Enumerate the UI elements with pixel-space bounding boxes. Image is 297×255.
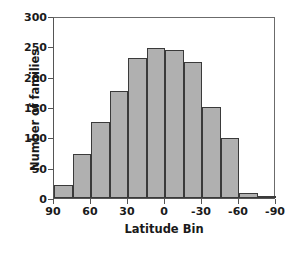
x-axis-tick-label: -30 — [191, 205, 211, 218]
y-axis-tick-label: 250 — [14, 41, 47, 54]
x-axis-tick-mark — [127, 199, 128, 204]
x-axis-tick-label: 0 — [160, 205, 168, 218]
x-axis-tick-label: -90 — [265, 205, 285, 218]
histogram-bar — [258, 196, 277, 198]
histogram-bar — [202, 107, 221, 198]
y-axis-tick-mark — [48, 138, 53, 139]
histogram-bar — [54, 185, 73, 198]
x-axis-tick-label: 60 — [82, 205, 97, 218]
y-axis-tick-labels: 050100150200250300 — [14, 0, 47, 255]
x-axis-title: Latitude Bin — [53, 222, 275, 236]
x-axis-tick-labels: 9060300-30-60-90 — [53, 205, 275, 221]
x-axis-tick-mark — [164, 199, 165, 204]
x-axis-tick-label: -60 — [228, 205, 248, 218]
y-axis-tick-mark — [48, 108, 53, 109]
histogram-bar — [221, 138, 240, 198]
histogram-bar — [110, 91, 129, 198]
x-axis-tick-mark — [53, 199, 54, 204]
histogram-bar — [128, 58, 147, 198]
x-axis-tick-mark — [275, 199, 276, 204]
y-axis-tick-mark — [48, 47, 53, 48]
y-axis-tick-label: 150 — [14, 102, 47, 115]
y-axis-tick-mark — [48, 78, 53, 79]
y-axis-tick-label: 100 — [14, 132, 47, 145]
y-axis-tick-label: 300 — [14, 11, 47, 24]
histogram-bar — [239, 193, 258, 198]
y-axis-tick-mark — [48, 169, 53, 170]
plot-area — [53, 17, 275, 199]
y-axis-tick-label: 50 — [14, 162, 47, 175]
y-axis-tick-mark — [48, 17, 53, 18]
x-axis-tick-mark — [90, 199, 91, 204]
histogram-bar — [147, 48, 166, 198]
histogram-bar — [165, 50, 184, 198]
y-axis-tick-label: 200 — [14, 71, 47, 84]
x-axis-tick-label: 30 — [119, 205, 134, 218]
histogram-bar — [91, 122, 110, 198]
y-axis-tick-label: 0 — [14, 193, 47, 206]
histogram-figure: Number of families 050100150200250300 90… — [0, 0, 297, 255]
x-axis-tick-mark — [238, 199, 239, 204]
x-axis-tick-label: 90 — [45, 205, 60, 218]
y-axis-tick-mark — [48, 199, 53, 200]
histogram-bar — [73, 154, 92, 198]
histogram-bar — [184, 62, 203, 199]
bar-series — [54, 18, 274, 198]
x-axis-tick-mark — [201, 199, 202, 204]
